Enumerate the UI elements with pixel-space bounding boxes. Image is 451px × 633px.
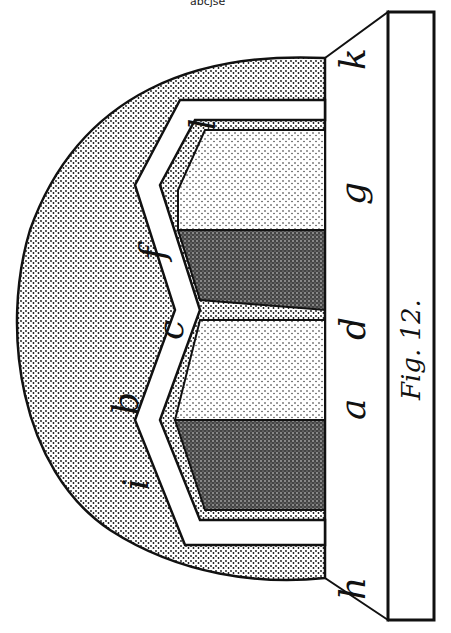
label-c: c — [150, 320, 191, 340]
figure-12-diagram: i b c f l h a d g k Fig. 12. — [0, 0, 451, 633]
label-k: k — [332, 48, 373, 70]
cell-lower-light — [175, 320, 325, 420]
label-g: g — [332, 182, 373, 205]
cell-upper-light — [178, 130, 325, 230]
cell-upper-dark — [178, 230, 325, 310]
label-l: l — [182, 118, 223, 130]
label-d: d — [332, 317, 373, 340]
figure-caption: Fig. 12. — [396, 299, 426, 401]
label-b: b — [105, 392, 146, 415]
label-i: i — [115, 478, 156, 490]
label-a: a — [332, 399, 373, 420]
label-h: h — [332, 577, 373, 600]
